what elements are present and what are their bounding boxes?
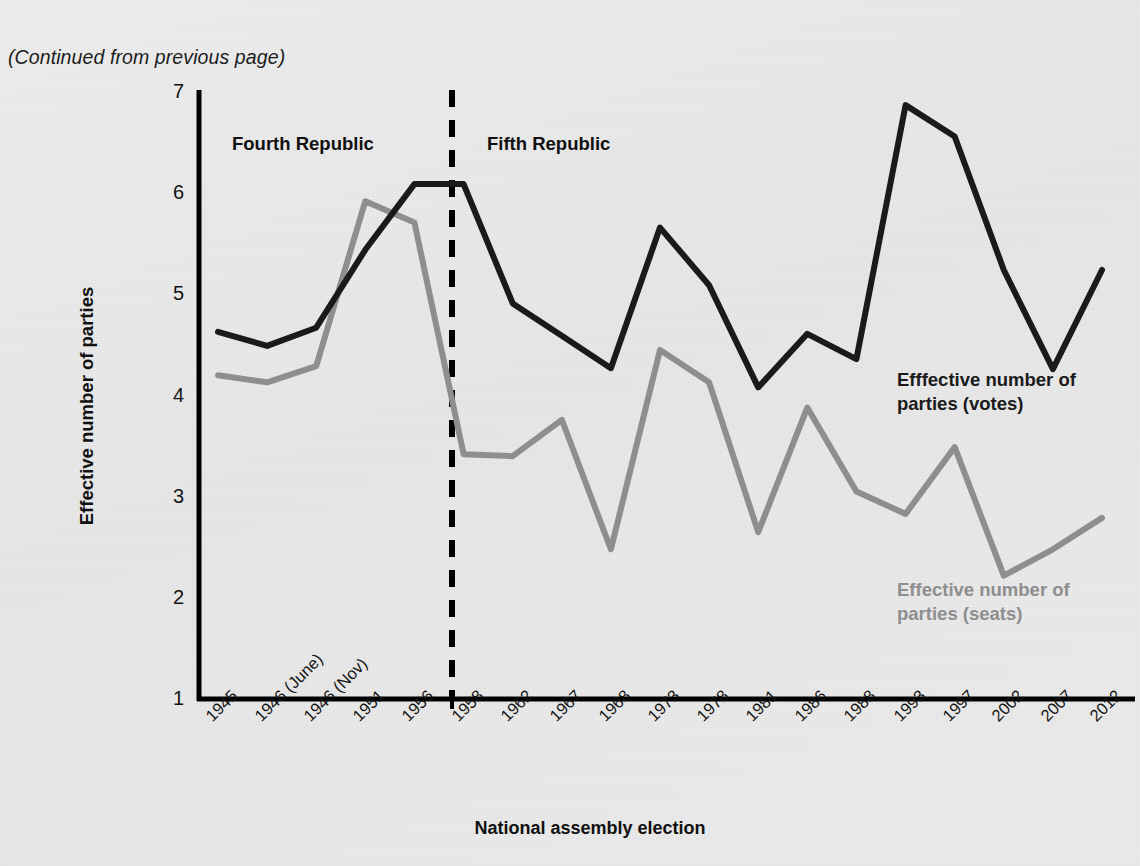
annotation-fifth-republic: Fifth Republic — [487, 133, 610, 155]
y-tick-label-6: 6 — [150, 181, 184, 204]
y-tick-label-4: 4 — [150, 384, 184, 407]
y-tick-label-7: 7 — [150, 80, 184, 103]
y-tick-label-1: 1 — [150, 687, 184, 710]
y-tick-label-5: 5 — [150, 282, 184, 305]
y-tick-label-2: 2 — [150, 586, 184, 609]
figure-root: (Continued from previous page) Effective… — [0, 0, 1140, 866]
series-callout-votes-line1: Efffective number of — [897, 368, 1076, 392]
annotation-fourth-republic: Fourth Republic — [232, 133, 374, 155]
series-callout-votes: Efffective number of parties (votes) — [897, 368, 1076, 417]
line-chart: Effective number of parties National ass… — [0, 0, 1140, 866]
series-callout-seats-line2: parties (seats) — [897, 602, 1070, 626]
y-axis-title: Effective number of parties — [76, 256, 98, 556]
series-callout-votes-line2: parties (votes) — [897, 392, 1076, 416]
x-axis-title: National assembly election — [200, 818, 980, 839]
chart-canvas — [0, 0, 1140, 866]
y-tick-label-3: 3 — [150, 485, 184, 508]
series-callout-seats: Effective number of parties (seats) — [897, 578, 1070, 627]
series-callout-seats-line1: Effective number of — [897, 578, 1070, 602]
